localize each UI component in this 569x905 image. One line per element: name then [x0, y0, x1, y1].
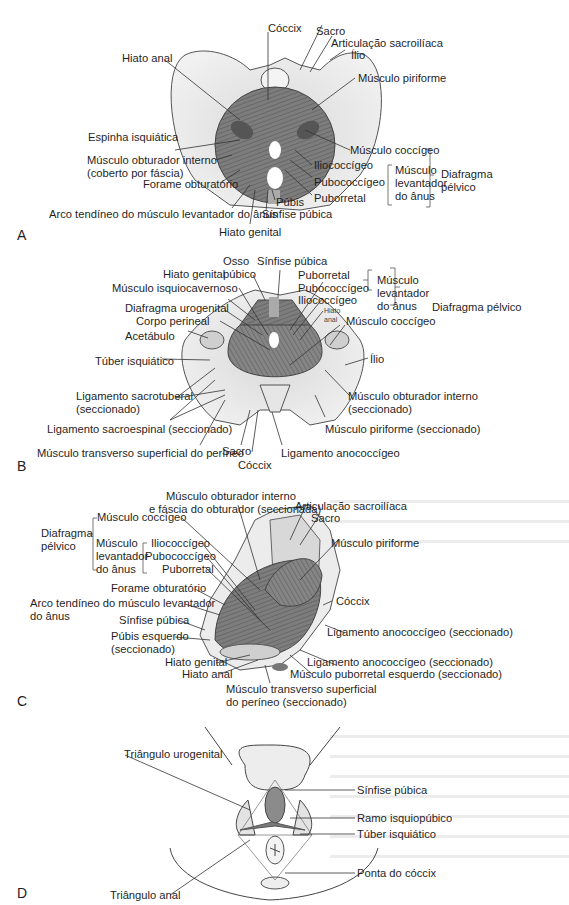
label-hiato-anal-2: anal: [324, 316, 337, 324]
label-osso-pubico-2: púbico: [223, 268, 256, 281]
label-hiato-anal: Hiato anal: [122, 52, 172, 65]
label-sinfise-pubica: Sínfise púbica: [357, 784, 427, 797]
label-piriforme-seccionado: Músculo piriforme (seccionado): [325, 423, 480, 436]
label-triangulo-urogenital: Triângulo urogenital: [124, 748, 222, 761]
panel-letter-b: B: [17, 458, 26, 474]
label-levantador: Músculo: [96, 537, 138, 550]
label-tuber-isquiatico: Túber isquiático: [95, 355, 174, 368]
label-obturador-interno: Músculo obturador interno: [87, 154, 217, 167]
label-musculo-piriforme: Músculo piriforme: [331, 537, 419, 550]
label-levantador-3: do ânus: [395, 190, 435, 203]
label-ligamento-sacrotuberal-2: (seccionado): [76, 403, 140, 416]
label-iliococcigeo: Iliococcígeo: [298, 294, 357, 307]
label-arco-tendineo: Arco tendíneo do músculo levantador do â…: [49, 208, 277, 221]
label-musculo-piriforme: Músculo piriforme: [358, 72, 446, 85]
label-sinfise-pubica: Sínfise púbica: [262, 208, 332, 221]
label-arco-tendineo: Arco tendíneo do músculo levantador: [30, 597, 215, 610]
label-hiato-anal: Hiato anal: [182, 668, 232, 681]
label-ilio: Ílio: [351, 49, 365, 62]
label-pubococcigeo: Pubococcígeo: [145, 550, 216, 563]
label-triangulo-anal: Triângulo anal: [110, 889, 180, 902]
label-levantador: Músculo: [395, 164, 437, 177]
label-sacro: Sacro: [222, 445, 251, 458]
label-ponta-coccix: Ponta do cóccix: [357, 867, 436, 880]
label-levantador-2: levantador: [395, 177, 447, 190]
label-iliococcigeo: Iliococcígeo: [314, 159, 373, 172]
label-levantador: Músculo: [377, 274, 419, 287]
label-iliococcigeo: Iliococcígeo: [151, 537, 210, 550]
label-transverso-superficial: Músculo transverso superficial do períne…: [37, 447, 244, 460]
label-musculo-coccigeo: Músculo coccígeo: [346, 315, 436, 328]
label-forame-obturatorio: Forame obturatório: [143, 178, 238, 191]
label-obturador-interno: Músculo obturador interno: [166, 490, 296, 503]
label-coccix: Cóccix: [336, 595, 370, 608]
label-ligamento-anococcigeo-1: Ligamento anococcígeo (seccionado): [327, 626, 513, 639]
label-puborretal: Puborretal: [298, 269, 350, 282]
label-hiato-anal: Hiato: [324, 307, 340, 315]
label-hiato-genital: Hiato genital: [163, 268, 225, 281]
label-levantador-3: do ânus: [377, 300, 417, 313]
label-diafragma-pelvico-2: pélvico: [441, 181, 476, 194]
label-sinfise-pubica: Sínfise púbica: [119, 614, 189, 627]
panel-a-illustration: [165, 25, 434, 224]
label-diafragma-pelvico: Diafragma pélvico: [432, 301, 522, 314]
label-acetabulo: Acetábulo: [125, 330, 175, 343]
label-tuber-isquiatico: Túber isquiático: [357, 828, 436, 841]
label-arco-tendineo-2: do ânus: [30, 610, 70, 623]
label-espinha-isquiatica: Espinha isquiática: [88, 131, 178, 144]
label-levantador-2: levantador: [377, 287, 429, 300]
label-puborretal: Puborretal: [314, 192, 366, 205]
label-coccix: Cóccix: [238, 459, 272, 472]
label-sacro: Sacro: [311, 512, 340, 525]
label-articulacao-sacroiliaca: Articulação sacroilíaca: [331, 37, 443, 50]
label-ligamento-sacrotuberal: Ligamento sacrotuberal: [76, 390, 193, 403]
label-obturador-interno: Músculo obturador interno: [348, 390, 478, 403]
label-transverso-superficial: Músculo transverso superficial: [226, 683, 376, 696]
label-coccix: Cóccix: [268, 22, 302, 35]
label-diafragma-pelvico: Diafragma: [441, 168, 493, 181]
label-puborretal: Puborretal: [162, 563, 214, 576]
label-musculo-coccigeo: Músculo coccígeo: [350, 144, 440, 157]
label-ligamento-sacroespinal: Ligamento sacroespinal (seccionado): [47, 423, 232, 436]
label-diafragma-pelvico-2: pélvico: [41, 540, 76, 553]
label-sinfise-pubica: Sínfise púbica: [257, 255, 327, 268]
label-osso-pubico: Osso: [223, 255, 249, 268]
label-pubis-esquerdo: Púbis esquerdo: [111, 630, 189, 643]
label-puborretal-esquerdo: Músculo puborretal esquerdo (seccionado): [290, 668, 502, 681]
label-transverso-superficial-2: do períneo (seccionado): [226, 696, 347, 709]
label-ilio: Ílio: [370, 353, 384, 366]
label-diafragma-urogenital: Diafragma urogenital: [125, 302, 229, 315]
label-ramo-isquiopubico: Ramo isquiopúbico: [357, 812, 452, 825]
label-forame-obturatorio: Forame obturatório: [111, 582, 206, 595]
panel-letter-a: A: [17, 227, 26, 243]
label-diafragma-pelvico: Diafragma: [41, 527, 93, 540]
label-corpo-perineal: Corpo perineal: [136, 315, 209, 328]
label-ligamento-anococcigeo: Ligamento anococcígeo: [281, 447, 400, 460]
label-musculo-isquiocavernoso: Músculo isquiocavernoso: [112, 282, 238, 295]
label-hiato-genital: Hiato genital: [219, 226, 281, 239]
panel-letter-c: C: [17, 693, 27, 709]
panel-letter-d: D: [17, 885, 27, 901]
label-levantador-2: levantador: [96, 550, 148, 563]
label-musculo-coccigeo: Músculo coccígeo: [97, 511, 187, 524]
label-levantador-3: do ânus: [96, 563, 136, 576]
label-obturador-interno-2: (seccionado): [348, 403, 412, 416]
label-pubococcigeo: Pubococcígeo: [314, 176, 385, 189]
label-pubis-esquerdo-2: (seccionado): [111, 643, 175, 656]
